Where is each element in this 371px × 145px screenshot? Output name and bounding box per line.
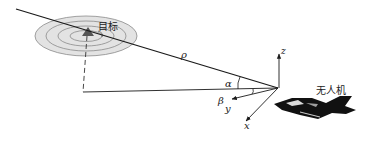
beta-label: β bbox=[218, 96, 224, 106]
x-axis-label: x bbox=[244, 121, 250, 131]
alpha-arc bbox=[238, 77, 240, 89]
uav-label: 无人机 bbox=[316, 86, 346, 96]
alpha-label: α bbox=[225, 79, 232, 89]
y-axis-label: y bbox=[225, 104, 231, 114]
z-axis-label: z bbox=[281, 47, 286, 56]
target-label: 目标 bbox=[98, 22, 118, 32]
beta-arc bbox=[252, 89, 253, 94]
diagram-canvas: 目标 无人机 ρ α β y x z bbox=[0, 0, 371, 145]
jet-aircraft-icon bbox=[274, 96, 356, 119]
diagram-svg bbox=[0, 0, 371, 145]
range-label: ρ bbox=[181, 50, 187, 60]
y-axis bbox=[232, 88, 278, 99]
x-axis bbox=[246, 88, 278, 121]
ground-projection-line bbox=[83, 88, 278, 92]
